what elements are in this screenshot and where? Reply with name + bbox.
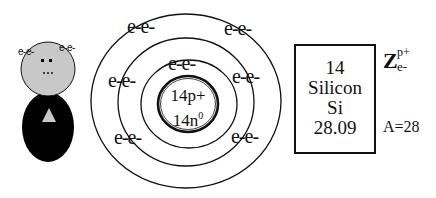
atomic-number: 14	[296, 58, 374, 78]
head-electron-label-right: e-e-	[59, 43, 75, 53]
electron-dot	[43, 72, 45, 74]
electron-dot	[41, 59, 44, 62]
electron-dot	[51, 72, 53, 74]
protons-label: 14p+	[158, 86, 218, 106]
z-symbol: Z	[383, 50, 398, 72]
inner-electron-label-top: e-e-	[168, 53, 195, 73]
z-subscript: e-	[397, 60, 407, 73]
lewis-figure	[0, 0, 100, 198]
middle-electron-label-left: e-e-	[108, 70, 135, 90]
neutrons-label: 14n	[173, 111, 199, 130]
atomic-mass: 28.09	[296, 118, 374, 138]
outer-electron-label-top-left: e-e-	[127, 16, 154, 36]
z-superscript: p+	[397, 46, 410, 58]
outer-electron-label-top-right: e-e-	[224, 18, 251, 38]
outer-electron-label-bottom-right: e-e-	[231, 126, 258, 146]
element-name: Silicon	[296, 78, 374, 98]
outer-electron-label-bottom-left: e-e-	[114, 127, 141, 147]
middle-electron-label-right: e-e-	[232, 66, 259, 86]
element-symbol: Si	[296, 98, 374, 118]
electron-dot	[49, 59, 52, 62]
figure-body	[22, 92, 74, 162]
neutrons-row: 14n0	[158, 106, 218, 131]
element-card: 14 Silicon Si 28.09	[294, 44, 376, 154]
electron-dot	[47, 72, 49, 74]
neutrons-superscript: 0	[198, 110, 203, 121]
head-electron-label-left: e-e-	[18, 47, 34, 57]
mass-number-label: A=28	[383, 118, 420, 136]
